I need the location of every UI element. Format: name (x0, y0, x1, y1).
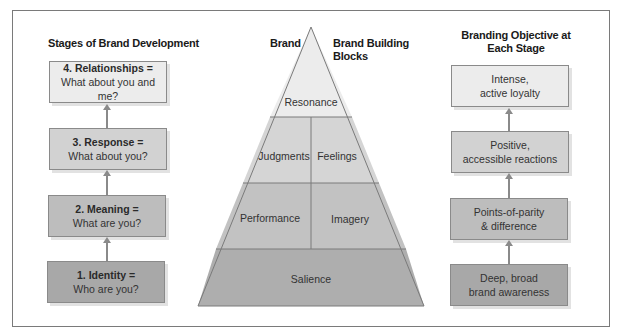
objective-line: Points-of-parity (474, 205, 545, 219)
arrow-up-icon (508, 245, 510, 264)
objective-line: accessible reactions (463, 152, 558, 166)
objective-box-loyalty: Intense, active loyalty (451, 65, 569, 107)
objective-box-reactions: Positive, accessible reactions (451, 131, 569, 173)
objective-line: active loyalty (480, 86, 540, 100)
heading-line: Each Stage (456, 42, 576, 55)
objective-box-awareness: Deep, broad brand awareness (450, 264, 568, 306)
block-feelings: Feelings (317, 150, 357, 162)
objective-box-parity: Points-of-parity & difference (450, 198, 568, 240)
heading-line: Branding Objective at (456, 29, 576, 42)
block-salience: Salience (291, 273, 331, 285)
block-resonance: Resonance (284, 96, 337, 108)
objectives-heading: Branding Objective at Each Stage (456, 29, 576, 55)
objective-line: & difference (481, 219, 537, 233)
objective-line: Deep, broad (480, 271, 538, 285)
block-imagery: Imagery (331, 213, 369, 225)
block-judgments: Judgments (258, 150, 309, 162)
objective-line: Positive, (490, 138, 530, 152)
objective-line: brand awareness (469, 285, 550, 299)
objective-line: Intense, (491, 72, 528, 86)
arrow-up-icon (508, 113, 510, 132)
block-performance: Performance (240, 212, 300, 224)
arrow-up-icon (508, 178, 510, 198)
